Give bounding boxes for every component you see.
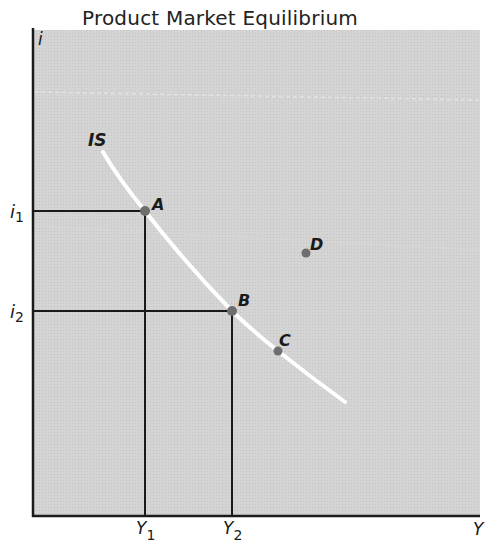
point-b-label: B [238, 291, 250, 310]
diagram-canvas: i Y IS A B C D i1 i2 Y1 Y2 [0, 0, 489, 544]
is-curve-label: IS [88, 130, 107, 150]
point-c-label: C [279, 331, 291, 350]
point-d-label: D [310, 235, 323, 254]
tick-i1: i1 [10, 201, 24, 225]
tick-Y2: Y2 [223, 518, 242, 543]
point-a-label: A [150, 195, 164, 214]
tick-i2: i2 [10, 301, 24, 325]
y-axis-label: i [38, 29, 43, 49]
point-a [140, 206, 150, 216]
point-b [227, 306, 237, 316]
plot-area [34, 30, 480, 516]
tick-Y1: Y1 [136, 518, 155, 543]
x-axis-label: Y [473, 519, 485, 539]
